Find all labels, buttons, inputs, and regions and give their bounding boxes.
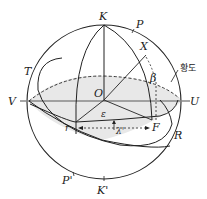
- label-p-prime: P': [61, 174, 72, 187]
- label-beta: β: [149, 72, 156, 85]
- label-k: K: [98, 10, 108, 23]
- label-epsilon: ε: [101, 109, 106, 119]
- label-o: O: [94, 87, 103, 100]
- label-r-upper: R: [173, 129, 182, 142]
- celestial-sphere-diagram: K P X T β 황도 V O U ε r λ' F R P' K': [0, 0, 207, 199]
- label-f: F: [151, 121, 160, 134]
- label-v: V: [8, 95, 17, 108]
- label-k-prime: K': [96, 184, 108, 197]
- label-p: P: [135, 18, 144, 31]
- label-lambda: λ': [115, 126, 124, 136]
- label-x: X: [139, 40, 149, 53]
- lambda-arrowhead-right: [145, 126, 150, 130]
- label-ecliptic: 황도: [180, 63, 196, 73]
- label-r: r: [65, 123, 70, 133]
- label-u: U: [190, 95, 200, 108]
